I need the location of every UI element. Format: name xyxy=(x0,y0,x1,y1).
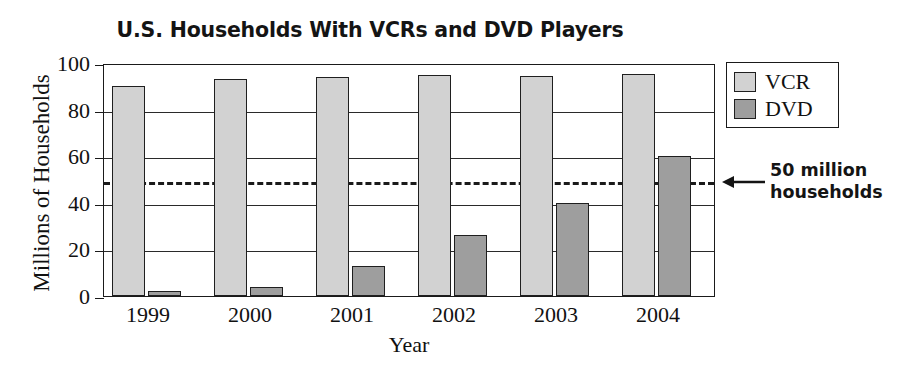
y-axis-label-60: 60 xyxy=(68,146,90,168)
y-axis-label-0: 0 xyxy=(79,286,90,308)
x-axis-label-2003: 2003 xyxy=(534,302,578,328)
y-tick-40 xyxy=(95,205,104,206)
legend-item-vcr[interactable]: VCR xyxy=(734,68,831,95)
bar-group-1999 xyxy=(104,65,206,296)
x-axis-label-2004: 2004 xyxy=(636,302,680,328)
bar-group-2001 xyxy=(308,65,410,296)
chart-legend: VCRDVD xyxy=(726,62,839,128)
bar-vcr-2001 xyxy=(316,77,349,296)
bar-dvd-2002 xyxy=(454,235,487,296)
x-axis-label-2002: 2002 xyxy=(432,302,476,328)
threshold-label-line1: 50 million xyxy=(770,160,867,180)
y-axis-label-40: 40 xyxy=(68,193,90,215)
bar-group-2004 xyxy=(614,65,716,296)
bar-dvd-2001 xyxy=(352,266,385,296)
y-tick-20 xyxy=(95,251,104,252)
x-axis-label-1999: 1999 xyxy=(126,302,170,328)
bar-vcr-2000 xyxy=(214,79,247,296)
bar-group-2000 xyxy=(206,65,308,296)
y-axis-title: Millions of Households xyxy=(29,53,55,313)
y-tick-0 xyxy=(95,298,104,299)
bar-group-2003 xyxy=(512,65,614,296)
y-axis-label-80: 80 xyxy=(68,100,90,122)
dvd-swatch xyxy=(734,99,756,119)
bar-vcr-2003 xyxy=(520,76,553,296)
legend-item-dvd[interactable]: DVD xyxy=(734,95,831,122)
y-axis-label-100: 100 xyxy=(57,53,90,75)
bar-dvd-2000 xyxy=(250,287,283,296)
legend-label-dvd: DVD xyxy=(765,98,813,120)
legend-label-vcr: VCR xyxy=(765,71,810,93)
bar-vcr-2002 xyxy=(418,75,451,296)
x-axis-label-2001: 2001 xyxy=(330,302,374,328)
threshold-label-line2: households xyxy=(770,182,883,202)
threshold-annotation: 50 million households xyxy=(722,160,883,204)
vcr-swatch xyxy=(734,72,756,92)
x-axis-title: Year xyxy=(103,332,715,358)
bar-vcr-1999 xyxy=(112,86,145,296)
plot-area xyxy=(103,64,715,297)
bar-vcr-2004 xyxy=(622,74,655,297)
bar-dvd-2004 xyxy=(658,156,691,296)
bar-dvd-1999 xyxy=(148,291,181,296)
x-axis-label-2000: 2000 xyxy=(228,302,272,328)
y-tick-60 xyxy=(95,158,104,159)
chart-title: U.S. Households With VCRs and DVD Player… xyxy=(0,18,740,42)
bar-group-2002 xyxy=(410,65,512,296)
bar-dvd-2003 xyxy=(556,203,589,296)
threshold-annotation-text: 50 million households xyxy=(770,160,883,204)
y-tick-80 xyxy=(95,112,104,113)
y-tick-100 xyxy=(95,65,104,66)
y-axis-label-20: 20 xyxy=(68,239,90,261)
left-arrow-icon xyxy=(722,172,766,192)
